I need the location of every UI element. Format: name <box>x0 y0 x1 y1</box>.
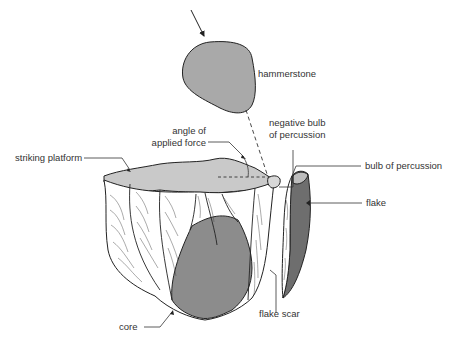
label-negative-bulb-line2: of percussion <box>269 129 326 140</box>
label-striking-platform: striking platform <box>15 152 82 163</box>
label-negative-bulb-line1: negative bulb <box>269 117 326 128</box>
label-hammerstone: hammerstone <box>258 68 316 79</box>
label-angle-line2: applied force <box>152 137 206 148</box>
flake-shape <box>282 171 310 298</box>
label-bulb-of-percussion: bulb of percussion <box>365 160 442 171</box>
label-core: core <box>119 321 137 332</box>
knapping-diagram: hammerstone angle of applied force negat… <box>0 0 450 341</box>
label-angle-line1: angle of <box>172 125 206 136</box>
force-arrow-icon <box>191 10 204 36</box>
label-flake: flake <box>366 197 386 208</box>
label-flake-scar: flake scar <box>259 308 300 319</box>
hammerstone-shape <box>182 42 255 113</box>
negative-bulb-shape <box>268 176 281 188</box>
